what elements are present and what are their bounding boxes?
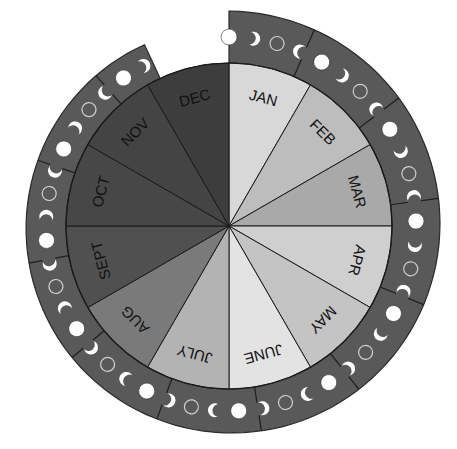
moon-full-icon <box>221 29 237 45</box>
lunar-calendar-wheel: JANFEBMARAPRMAYJUNEJULYAUGSEPTOCTNOVDEC <box>0 0 457 449</box>
month-pie <box>66 63 392 389</box>
moon-full-icon <box>408 213 424 229</box>
